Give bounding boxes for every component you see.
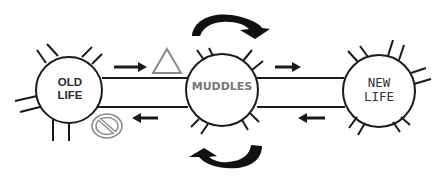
arrow-right-old-to-muddles	[114, 62, 147, 72]
new-life-label: NEW LIFE	[349, 76, 409, 105]
arrow-left-muddles-to-old	[132, 113, 158, 123]
muddles-label: MUDDLES	[186, 81, 258, 94]
old-life-label-line1: OLD	[40, 76, 100, 89]
new-life-label-line2: LIFE	[349, 90, 409, 104]
warning-triangle-icon	[153, 49, 181, 73]
arrow-left-new-to-muddles	[298, 113, 325, 123]
old-life-label-line2: LIFE	[40, 89, 100, 102]
counterclockwise-curved-arrow-icon	[189, 145, 262, 168]
no-entry-sign-icon	[92, 114, 122, 138]
clockwise-curved-arrow-icon	[192, 14, 270, 39]
new-life-label-line1: NEW	[349, 76, 409, 90]
muddles-label-line1: MUDDLES	[186, 81, 258, 94]
arrow-right-muddles-to-new	[275, 62, 301, 72]
old-life-label: OLD LIFE	[40, 76, 100, 102]
